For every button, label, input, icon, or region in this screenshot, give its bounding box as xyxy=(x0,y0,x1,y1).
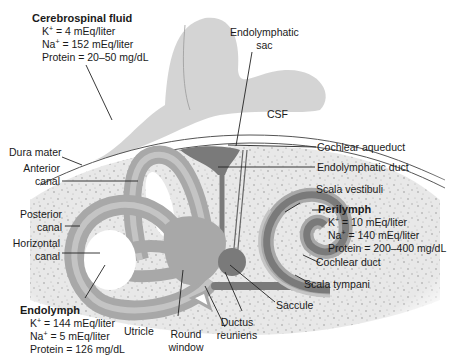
perilymph-protein-row: Protein = 200–400 mg/dL xyxy=(328,242,446,255)
label-endolymphatic-sac: Endolymphatic sac xyxy=(230,26,299,52)
endolymph-title: Endolymph xyxy=(20,304,125,317)
label-ductus-reuniens: Ductus reuniens xyxy=(216,316,258,342)
csf-na-row: Na+ = 152 mEq/liter xyxy=(42,38,149,51)
perilymph-composition: Perilymph K+ = 10 mEq/liter Na+ = 140 mE… xyxy=(318,203,446,255)
endolymph-composition: Endolymph K+ = 144 mEq/liter Na+ = 5 mEq… xyxy=(20,304,125,356)
label-posterior-canal: Posterior canal xyxy=(10,208,62,234)
csf-protein-row: Protein = 20–50 mg/dL xyxy=(42,51,149,64)
label-csf: CSF xyxy=(267,108,288,121)
label-utricle: Utricle xyxy=(124,325,154,338)
csf-title: Cerebrospinal fluid xyxy=(32,12,149,25)
label-anterior-canal: Anterior canal xyxy=(14,162,60,188)
label-scala-vestibuli: Scala vestibuli xyxy=(316,183,383,196)
perilymph-title: Perilymph xyxy=(318,203,446,216)
label-horizontal-canal: Horizontal canal xyxy=(2,237,60,263)
label-scala-tympani: Scala tympani xyxy=(304,278,370,291)
endolymph-k-row: K+ = 144 mEq/liter xyxy=(30,317,125,330)
csf-composition: Cerebrospinal fluid K+ = 4 mEq/liter Na+… xyxy=(32,12,149,64)
label-saccule: Saccule xyxy=(276,299,313,312)
endolymph-protein-row: Protein = 126 mg/dL xyxy=(30,343,125,356)
saccule xyxy=(218,248,246,276)
label-dura-mater: Dura mater xyxy=(9,146,62,159)
label-cochlear-aqueduct: Cochlear aqueduct xyxy=(317,141,405,154)
csf-k-row: K+ = 4 mEq/liter xyxy=(42,25,149,38)
perilymph-k-row: K+ = 10 mEq/liter xyxy=(328,216,446,229)
label-cochlear-duct: Cochlear duct xyxy=(316,256,381,269)
label-round-window: Round window xyxy=(166,328,206,354)
endolymph-na-row: Na+ = 5 mEq/liter xyxy=(30,330,125,343)
perilymph-na-row: Na+ = 140 mEq/liter xyxy=(328,229,446,242)
label-endolymphatic-duct: Endolymphatic duct xyxy=(317,161,409,174)
